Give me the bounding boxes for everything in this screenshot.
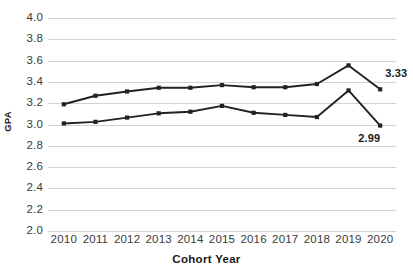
x-axis-tick-label: 2016 (240, 234, 266, 246)
x-axis-tick-label: 2011 (83, 234, 109, 246)
data-point-marker (93, 94, 97, 98)
data-point-marker (125, 89, 129, 93)
y-axis-tick-label: 3.4 (26, 76, 43, 88)
series-lines (48, 18, 396, 231)
data-point-marker (220, 104, 224, 108)
data-point-marker (283, 85, 287, 89)
x-axis-tick-label: 2014 (177, 234, 203, 246)
y-axis-title: GPA (2, 111, 13, 131)
data-point-marker (315, 82, 319, 86)
y-axis-tick-label: 2.0 (26, 225, 43, 237)
data-point-marker (188, 86, 192, 90)
data-point-marker (220, 83, 224, 87)
data-point-marker (315, 115, 319, 119)
y-axis-tick-label: 3.8 (26, 33, 43, 45)
x-axis-title: Cohort Year (0, 253, 413, 265)
data-point-marker (188, 110, 192, 114)
y-axis-tick-label: 3.2 (26, 97, 43, 109)
data-point-label: 3.33 (385, 67, 407, 79)
plot-area (48, 18, 396, 231)
data-point-marker (157, 86, 161, 90)
y-axis-tick-label: 2.6 (26, 161, 43, 173)
y-axis-tick-label: 4.0 (26, 12, 43, 24)
data-point-marker (283, 113, 287, 117)
y-axis-tick-label: 2.8 (26, 140, 43, 152)
data-point-label: 2.99 (358, 132, 380, 144)
gpa-line-chart: 4.03.83.63.43.23.02.82.62.42.22.0 GPA 20… (0, 0, 413, 273)
x-axis-tick-label: 2020 (367, 234, 393, 246)
x-axis-tick-label: 2015 (209, 234, 235, 246)
data-point-marker (125, 115, 129, 119)
x-axis-tick-labels: 2010201120122013201420152016201720182019… (48, 234, 396, 250)
series-line (64, 90, 380, 125)
data-point-marker (252, 85, 256, 89)
data-point-marker (157, 111, 161, 115)
y-axis-tick-label: 2.4 (26, 182, 43, 194)
y-axis-tick-label: 3.6 (26, 55, 43, 67)
x-axis-tick-label: 2012 (114, 234, 140, 246)
data-point-marker (346, 63, 350, 67)
y-axis-tick-label: 3.0 (26, 119, 43, 131)
x-axis-tick-label: 2013 (146, 234, 172, 246)
x-axis-tick-label: 2010 (51, 234, 77, 246)
data-point-marker (378, 123, 382, 127)
x-axis-tick-label: 2019 (335, 234, 361, 246)
y-axis-tick-label: 2.2 (26, 204, 43, 216)
data-point-marker (62, 102, 66, 106)
data-point-marker (62, 121, 66, 125)
data-point-marker (252, 111, 256, 115)
x-axis-tick-label: 2017 (272, 234, 298, 246)
data-point-marker (346, 88, 350, 92)
data-point-marker (93, 120, 97, 124)
gridline (48, 231, 396, 232)
x-axis-tick-label: 2018 (304, 234, 330, 246)
data-point-marker (378, 87, 382, 91)
